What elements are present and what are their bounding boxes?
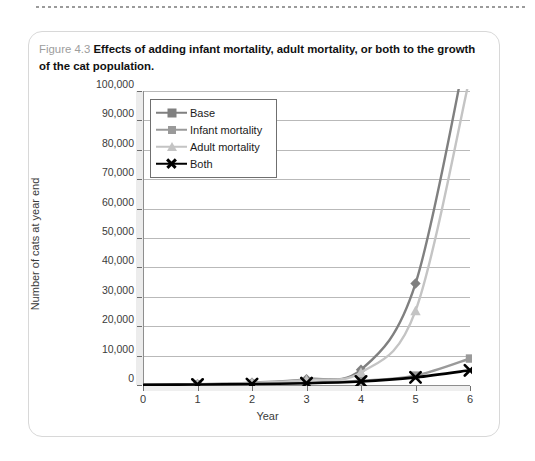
figure-page: Figure 4.3 Effects of adding infant mort… [0, 0, 535, 461]
figure-caption: Figure 4.3 Effects of adding infant mort… [39, 41, 489, 74]
figure-container [28, 31, 500, 437]
page-top-dotted-rule [36, 6, 526, 8]
figure-number: Figure 4.3 [39, 43, 90, 55]
figure-caption-text: Effects of adding infant mortality, adul… [39, 43, 475, 72]
